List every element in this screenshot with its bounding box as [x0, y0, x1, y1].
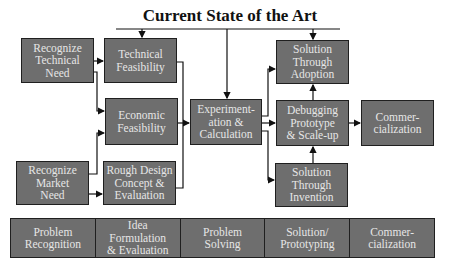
- box-technical-feasibility: Technical Feasibility: [104, 38, 177, 83]
- phase-problem-recognition: Problem Recognition: [11, 219, 96, 257]
- box-solution-adoption: Solution Through Adoption: [276, 40, 349, 84]
- box-solution-invention: Solution Through Invention: [275, 163, 348, 207]
- phase-solution-prototyping: Solution/ Prototyping: [265, 219, 350, 257]
- box-recognize-technical-need: Recognize Technical Need: [21, 38, 94, 83]
- phase-commercialization: Commer- cialization: [350, 219, 434, 257]
- phase-problem-solving: Problem Solving: [181, 219, 266, 257]
- box-rough-design: Rough Design Concept & Evaluation: [103, 161, 176, 205]
- box-recognize-market-need: Recognize Market Need: [16, 161, 89, 205]
- box-debugging: Debugging Prototype & Scale-up: [276, 100, 349, 146]
- box-experimentation: Experiment- ation & Calculation: [190, 99, 262, 145]
- box-commercialization: Commer- cialization: [361, 100, 434, 146]
- phase-bar: Problem Recognition Idea Formulation & E…: [10, 218, 435, 258]
- phase-idea-formulation: Idea Formulation & Evaluation: [96, 219, 181, 257]
- box-economic-feasibility: Economic Feasibility: [105, 98, 178, 145]
